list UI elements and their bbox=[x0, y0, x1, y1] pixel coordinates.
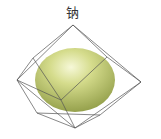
atom-sphere bbox=[35, 48, 115, 112]
crystal-cell-diagram bbox=[0, 0, 161, 139]
